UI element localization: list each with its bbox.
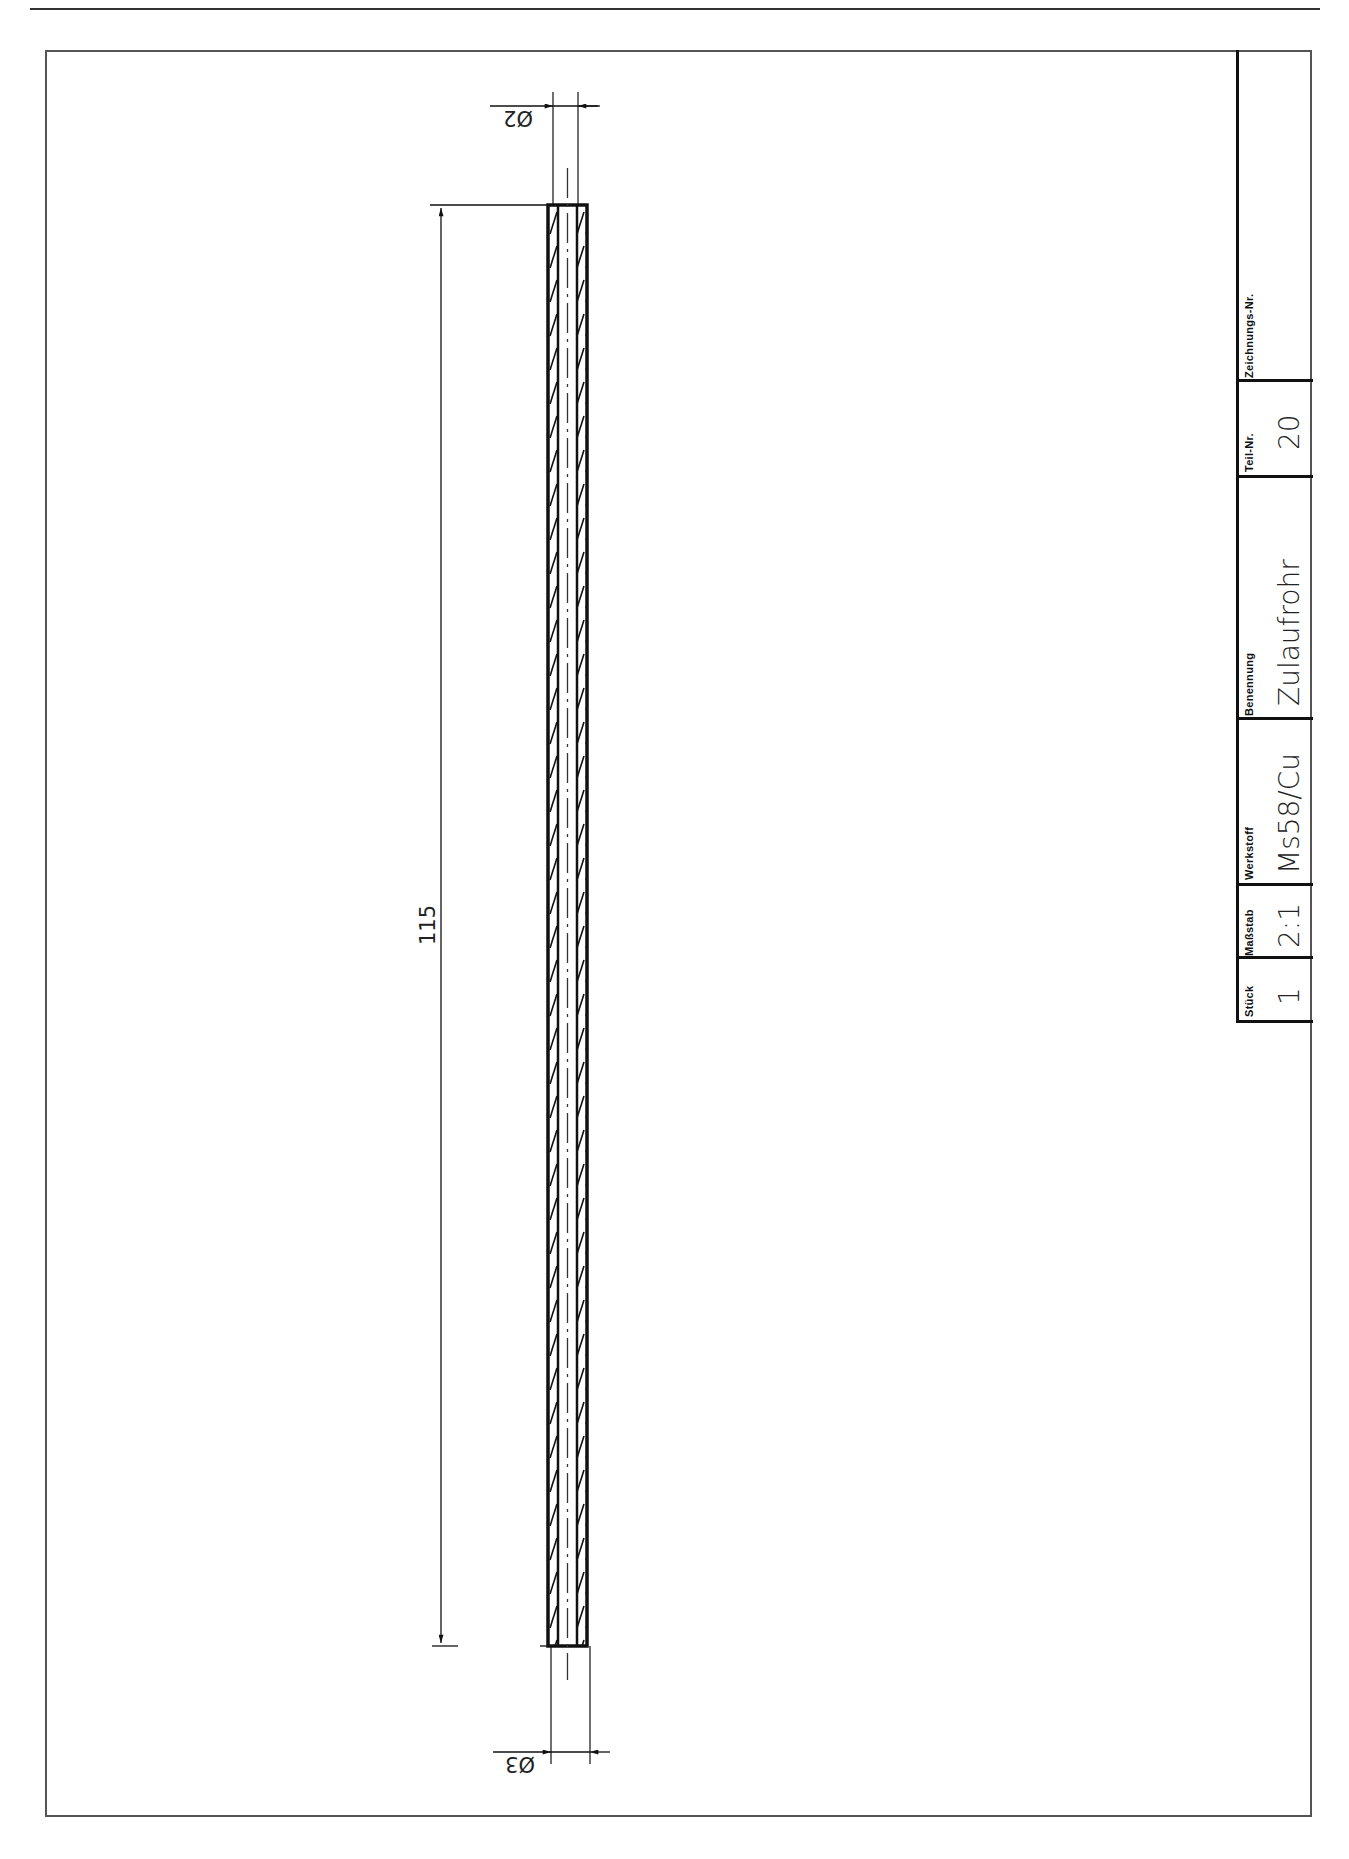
cell-drawing-number: Zeichnungs-Nr. [1239,50,1313,382]
length-dimension: 115 [416,205,548,1646]
value-name: Zulaufrohr [1273,559,1306,706]
cell-scale: Maßstab 2:1 [1239,886,1313,959]
cell-name: Benennung Zulaufrohr [1239,478,1313,720]
title-block: Zeichnungs-Nr. Teil-Nr. 20 Benennung Zul… [1236,50,1313,1023]
label-name: Benennung [1243,653,1255,716]
left-wall-hatching [549,206,558,1645]
technical-drawing: 115 Ø2 Ø3 [0,0,1349,1859]
label-drawing-number: Zeichnungs-Nr. [1243,294,1255,378]
diameter-dimension-top: Ø2 [490,92,600,205]
value-material: Ms58/Cu [1273,753,1306,874]
value-part-number: 20 [1273,414,1306,450]
cell-part-number: Teil-Nr. 20 [1239,382,1313,478]
label-part-number: Teil-Nr. [1243,433,1255,472]
diameter-dimension-bottom: Ø3 [493,1646,610,1776]
dimension-label-d2: Ø2 [503,106,533,130]
tube-section [548,168,587,1680]
label-quantity: Stück [1243,986,1255,1017]
dimension-label-d3: Ø3 [505,1752,535,1776]
value-quantity: 1 [1273,987,1306,1005]
cell-material: Werkstoff Ms58/Cu [1239,720,1313,886]
label-scale: Maßstab [1243,909,1255,956]
value-scale: 2:1 [1273,903,1306,948]
dimension-label-length: 115 [416,905,440,945]
label-material: Werkstoff [1243,827,1255,880]
cell-quantity: Stück 1 [1239,959,1313,1020]
